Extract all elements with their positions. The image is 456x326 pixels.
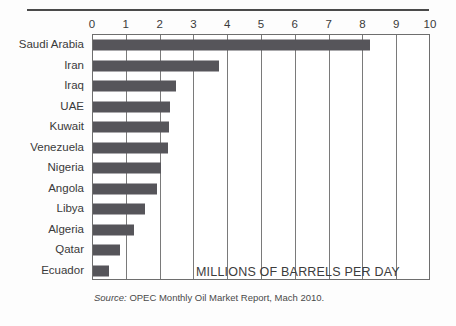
category-label-iran: Iran	[64, 58, 84, 71]
source-note: Source: OPEC Monthly Oil Market Report, …	[94, 292, 324, 303]
x-tick-label-4: 4	[224, 17, 230, 31]
x-axis-annotation: MILLIONS OF BARRELS PER DAY	[196, 265, 400, 279]
category-label-libya: Libya	[57, 202, 85, 215]
bar-uae	[93, 101, 170, 112]
category-label-ecuador: Ecuador	[41, 263, 84, 276]
x-tick-label-10: 10	[424, 17, 437, 31]
category-label-iraq: Iraq	[64, 79, 84, 92]
x-tick-label-0: 0	[89, 17, 95, 31]
x-tick-label-5: 5	[258, 17, 264, 31]
x-axis-tick-labels: 012345678910	[92, 17, 430, 33]
x-tick-label-6: 6	[292, 17, 298, 31]
bar-nigeria	[93, 163, 161, 174]
chart-figure: 012345678910 Saudi ArabiaIranIraqUAEKuwa…	[0, 0, 456, 326]
bar-libya	[93, 204, 145, 215]
x-tick-label-1: 1	[123, 17, 129, 31]
bar-series	[93, 35, 429, 279]
category-label-kuwait: Kuwait	[49, 120, 84, 133]
bar-iran	[93, 60, 219, 71]
category-label-angola: Angola	[48, 181, 84, 194]
x-tick-label-2: 2	[156, 17, 162, 31]
source-citation: OPEC Monthly Oil Market Report, Mach 201…	[127, 292, 324, 303]
y-axis-category-labels: Saudi ArabiaIranIraqUAEKuwaitVenezuelaNi…	[0, 34, 88, 280]
bar-kuwait	[93, 122, 169, 133]
x-tick-label-9: 9	[393, 17, 399, 31]
top-divider-rule	[27, 9, 429, 11]
x-tick-label-8: 8	[359, 17, 365, 31]
source-label: Source:	[94, 292, 127, 303]
bar-ecuador	[93, 265, 109, 276]
category-label-algeria: Algeria	[48, 222, 84, 235]
bar-venezuela	[93, 142, 168, 153]
bar-qatar	[93, 245, 120, 256]
x-tick-label-7: 7	[325, 17, 331, 31]
category-label-qatar: Qatar	[55, 243, 84, 256]
category-label-nigeria: Nigeria	[48, 161, 84, 174]
bar-angola	[93, 183, 157, 194]
category-label-venezuela: Venezuela	[30, 140, 84, 153]
category-label-saudi-arabia: Saudi Arabia	[19, 38, 84, 51]
x-tick-label-3: 3	[190, 17, 196, 31]
category-label-uae: UAE	[60, 99, 84, 112]
bar-saudi-arabia	[93, 40, 370, 51]
bar-iraq	[93, 81, 176, 92]
bar-algeria	[93, 224, 134, 235]
